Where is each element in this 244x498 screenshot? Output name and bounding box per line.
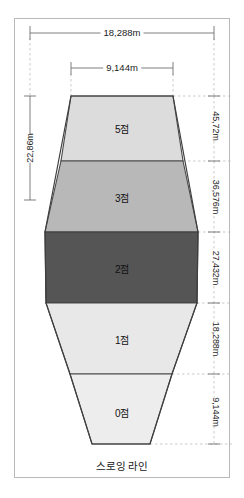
zone-label-1: 1점 bbox=[115, 332, 129, 347]
dimension-label-range-1: 9,144m bbox=[209, 397, 223, 426]
dimension-label-range-2: 18,288m bbox=[209, 322, 223, 356]
dimension-label-inner-width: 9,144m bbox=[103, 62, 141, 73]
zone-label-5: 5점 bbox=[115, 121, 129, 136]
dimension-label-range-3: 27,432m bbox=[209, 251, 223, 285]
dimension-label-range-5: 45,72m bbox=[209, 111, 223, 140]
dimension-label-outer-width: 18,288m bbox=[101, 27, 144, 38]
zone-label-2: 2점 bbox=[115, 261, 129, 276]
zone-label-0: 0점 bbox=[115, 405, 129, 420]
zone-label-3: 3점 bbox=[115, 190, 129, 205]
diagram-canvas bbox=[0, 0, 244, 498]
dimension-label-total-height: 22,86m bbox=[23, 133, 37, 162]
scoring-field-diagram: 5점 3점 2점 1점 0점 18,288m 9,144m 22,86m 45,… bbox=[0, 0, 244, 498]
dimension-label-range-4: 36,576m bbox=[209, 180, 223, 214]
throwing-line-caption: 스로잉 라인 bbox=[96, 458, 148, 473]
